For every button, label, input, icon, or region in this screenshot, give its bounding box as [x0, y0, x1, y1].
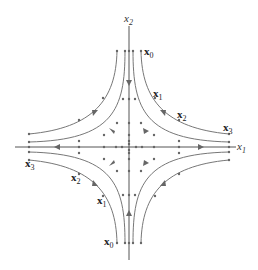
trajectory-ul-outer — [29, 51, 117, 134]
arrow-ll-outer-icon — [92, 180, 98, 186]
trajectory-ur-inner — [133, 51, 229, 142]
label-ur-x0: x0 — [144, 45, 154, 60]
arrow-right-icon — [198, 144, 204, 150]
trajectory-lr-outer — [141, 160, 229, 243]
saddle-phase-portrait: x2 x1 — [0, 0, 258, 270]
trajectory-ul-inner — [29, 51, 125, 142]
trajectory-lr-inner — [133, 152, 229, 243]
trajectory-ll-inner — [29, 152, 125, 243]
label-ll-x0: x0 — [104, 235, 114, 250]
label-ll-x3: x3 — [25, 157, 35, 172]
arrow-lr-inner-icon — [143, 160, 149, 166]
arrow-up-icon — [126, 210, 132, 216]
arrow-down-icon — [126, 80, 132, 86]
arrow-ul-outer-icon — [92, 110, 98, 116]
arrow-ur-inner-icon — [143, 128, 149, 134]
x1-axis-label: x1 — [236, 140, 246, 155]
arrow-lr-outer-icon — [160, 180, 166, 186]
arrow-left-icon — [54, 144, 60, 150]
x2-axis-label: x2 — [123, 12, 133, 27]
arrow-ul-inner-icon — [109, 128, 115, 134]
arrow-ll-inner-icon — [109, 160, 115, 166]
arrow-ur-outer-icon — [160, 110, 166, 116]
